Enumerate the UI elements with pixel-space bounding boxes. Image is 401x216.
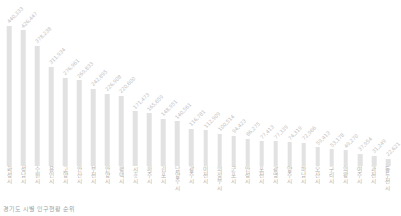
bar-column: 37,954	[353, 0, 367, 166]
x-axis-tick: 광주시	[184, 166, 198, 202]
x-axis-tick: 오산시	[311, 166, 325, 202]
x-axis-tick-label: 이천시	[203, 166, 209, 185]
bar-column: 148,951	[156, 0, 170, 166]
bar	[119, 96, 124, 166]
x-axis-tick-label: 안산시	[76, 166, 82, 185]
x-axis-tick: 과천시	[367, 166, 381, 202]
chart-plot-area: 440,333426,447378,238311,934276,961269,8…	[0, 0, 397, 166]
x-axis-tick: 평택시	[114, 166, 128, 202]
bar-column: 77,413	[255, 0, 269, 166]
bar	[372, 156, 377, 166]
bar-column: 86,275	[241, 0, 255, 166]
bar-column: 140,561	[170, 0, 184, 166]
bar	[358, 154, 363, 166]
bar-column: 74,319	[283, 0, 297, 166]
x-axis-tick: 포천시	[255, 166, 269, 202]
bar	[49, 67, 54, 166]
x-axis-tick: 화성시	[2, 166, 16, 202]
bar	[63, 78, 68, 166]
x-axis-tick: 광명시	[269, 166, 283, 202]
bar	[245, 139, 250, 166]
x-axis-tick: 동두천시	[381, 166, 395, 202]
bar	[189, 129, 194, 166]
x-axis-tick: 의정부시	[213, 166, 227, 202]
x-axis-tick: 시흥시	[128, 166, 142, 202]
x-axis-tick-label: 하남시	[301, 166, 307, 185]
x-axis-tick-label: 동두천시	[385, 166, 391, 191]
x-axis-tick-label: 양주시	[287, 166, 293, 185]
bar	[91, 89, 96, 166]
x-axis-tick-label: 남양주시	[174, 166, 180, 191]
x-axis-tick: 의왕시	[339, 166, 353, 202]
bar	[217, 134, 222, 166]
x-axis-tick: 이천시	[199, 166, 213, 202]
x-axis-tick: 안산시	[72, 166, 86, 202]
x-axis-tick: 수원시	[30, 166, 44, 202]
x-axis-tick: 성남시	[16, 166, 30, 202]
bar-column: 53,178	[325, 0, 339, 166]
bar	[175, 121, 180, 166]
x-axis-label-band: 화성시성남시수원시용인시고양시안산시부천시안양시평택시시흥시파주시김포시남양주시…	[0, 166, 397, 202]
x-axis-tick-label: 포천시	[259, 166, 265, 185]
x-axis-tick: 파주시	[142, 166, 156, 202]
chart-caption: 경기도 시별 인구현황 순위	[3, 205, 75, 213]
bar-value-label: 22,621	[385, 142, 401, 158]
bar	[161, 119, 166, 166]
bar	[386, 159, 391, 166]
x-axis-tick-label: 평택시	[118, 166, 124, 185]
bar-column: 77,339	[269, 0, 283, 166]
bar	[133, 111, 138, 166]
x-axis-tick: 남양주시	[170, 166, 184, 202]
x-axis-tick-label: 과천시	[371, 166, 377, 185]
x-axis-tick-label: 구리시	[329, 166, 335, 185]
x-axis-tick-label: 고양시	[62, 166, 68, 185]
bar-column: 22,621	[381, 0, 395, 166]
x-axis-tick: 구리시	[325, 166, 339, 202]
x-axis-tick-label: 성남시	[20, 166, 26, 185]
x-axis-tick-label: 광주시	[188, 166, 194, 185]
bar	[21, 30, 26, 166]
x-axis-tick-label: 부천시	[90, 166, 96, 185]
x-axis-tick-label: 수원시	[34, 166, 40, 185]
bar-column: 226,908	[100, 0, 114, 166]
x-axis-tick-label: 의정부시	[217, 166, 223, 191]
bar	[203, 130, 208, 166]
bar	[316, 147, 321, 166]
bar-column: 276,961	[58, 0, 72, 166]
bar-column: 116,781	[184, 0, 198, 166]
bar-column: 100,514	[213, 0, 227, 166]
bar	[273, 141, 278, 166]
bar	[330, 149, 335, 166]
bar-column: 311,934	[44, 0, 58, 166]
bar	[259, 141, 264, 166]
x-axis-tick-label: 여주시	[357, 166, 363, 185]
x-axis-tick-label: 안양시	[104, 166, 110, 185]
x-axis-tick: 양주시	[283, 166, 297, 202]
bar-column: 165,659	[142, 0, 156, 166]
x-axis-tick: 여주시	[353, 166, 367, 202]
bar	[147, 113, 152, 166]
x-axis-tick-label: 시흥시	[132, 166, 138, 185]
x-axis-tick-label: 안성시	[245, 166, 251, 185]
x-axis-tick-label: 용인시	[48, 166, 54, 185]
x-axis-tick: 안양시	[100, 166, 114, 202]
bar-column: 94,423	[227, 0, 241, 166]
x-axis-tick: 고양시	[58, 166, 72, 202]
bar	[231, 136, 236, 166]
x-axis-tick-label: 화성시	[6, 166, 12, 185]
bar	[7, 26, 12, 166]
x-axis-tick-label: 의왕시	[343, 166, 349, 185]
bar-column: 242,895	[86, 0, 100, 166]
bar	[35, 46, 40, 166]
bar-column: 31,249	[367, 0, 381, 166]
x-axis-tick-label: 군포시	[231, 166, 237, 185]
bar-column: 171,473	[128, 0, 142, 166]
bar-column: 112,909	[199, 0, 213, 166]
bar-column: 59,413	[311, 0, 325, 166]
x-axis-tick: 안성시	[241, 166, 255, 202]
bar-column: 440,333	[2, 0, 16, 166]
bar-column: 378,238	[30, 0, 44, 166]
bar-column: 426,447	[16, 0, 30, 166]
x-axis-tick: 김포시	[156, 166, 170, 202]
x-axis-tick: 하남시	[297, 166, 311, 202]
